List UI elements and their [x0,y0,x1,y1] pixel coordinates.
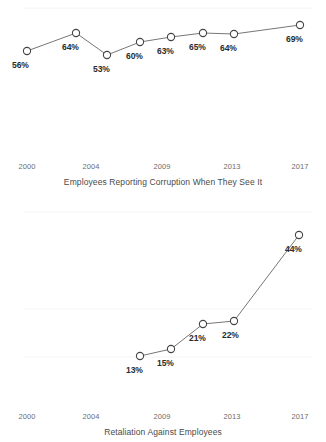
data-point-label: 22% [222,330,239,340]
data-point-marker[interactable] [167,33,174,40]
data-point-label: 15% [157,358,174,368]
data-point-marker[interactable] [199,29,206,36]
x-axis-tick-2013: 2013 [223,412,240,421]
data-point-marker[interactable] [23,47,30,54]
data-point-marker[interactable] [136,352,143,359]
data-point-marker[interactable] [295,231,302,238]
x-axis-tick-2000: 2000 [18,162,35,171]
data-point-label: 53% [93,64,110,74]
data-point-label: 69% [286,34,303,44]
data-point-label: 44% [285,244,302,254]
line-chart-svg-bottom [0,190,326,405]
data-point-label: 63% [157,46,174,56]
chart-employees-reporting-corruption: 56%64%53%60%63%65%64%69% 200020042009201… [0,0,326,190]
plot-area-bottom: 13%15%21%22%44% [0,190,326,405]
x-axis-tick-2013: 2013 [223,162,240,171]
data-point-label: 65% [189,42,206,52]
data-point-marker[interactable] [167,345,174,352]
data-point-marker[interactable] [230,317,237,324]
x-axis-tick-2004: 2004 [82,162,99,171]
data-point-label: 64% [62,42,79,52]
chart-retaliation-against-employees: 13%15%21%22%44% 20002004200920132017 Ret… [0,190,326,442]
series-line [140,235,299,356]
data-point-marker[interactable] [103,51,110,58]
chart-title-top: Employees Reporting Corruption When They… [0,177,326,187]
x-axis-tick-2017: 2017 [291,412,308,421]
data-point-label: 13% [126,365,143,375]
data-point-label: 21% [189,333,206,343]
data-point-label: 64% [220,43,237,53]
x-axis-tick-2009: 2009 [153,162,170,171]
x-axis-tick-2000: 2000 [18,412,35,421]
plot-area-top: 56%64%53%60%63%65%64%69% [0,0,326,155]
x-axis-tick-2004: 2004 [82,412,99,421]
x-axis-tick-2017: 2017 [291,162,308,171]
data-point-marker[interactable] [199,320,206,327]
data-point-label: 60% [126,51,143,61]
data-point-label: 56% [12,60,29,70]
chart-title-bottom: Retaliation Against Employees [0,427,326,437]
data-point-marker[interactable] [296,21,303,28]
data-point-marker[interactable] [230,30,237,37]
data-point-marker[interactable] [136,38,143,45]
x-axis-tick-2009: 2009 [153,412,170,421]
data-point-marker[interactable] [72,29,79,36]
line-chart-svg-top [0,0,326,155]
